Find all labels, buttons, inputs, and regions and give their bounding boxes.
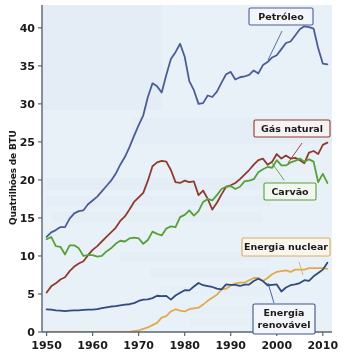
y-tick-label: 10 bbox=[20, 250, 36, 263]
callout-energia-renovavel-label-line1: Energia bbox=[264, 307, 305, 318]
callout-energia-renovavel[interactable]: Energia renovável bbox=[253, 304, 315, 334]
callout-energia-renovavel-label-line2: renovável bbox=[258, 319, 311, 330]
x-tick-label: 1990 bbox=[215, 339, 246, 352]
x-tick-label: 2000 bbox=[261, 339, 292, 352]
callout-petroleo-label: Petróleo bbox=[258, 11, 304, 22]
y-tick-label: 5 bbox=[27, 288, 35, 301]
x-tick-label: 1980 bbox=[169, 339, 200, 352]
callout-energia-nuclear[interactable]: Energia nuclear bbox=[242, 238, 330, 256]
y-tick-label: 25 bbox=[20, 136, 35, 149]
chart-canvas: 0510152025303540 19501960197019801990200… bbox=[0, 0, 344, 356]
x-tick-label: 1950 bbox=[31, 339, 62, 352]
callout-carvao[interactable]: Carvão bbox=[264, 183, 316, 200]
x-tick-label: 2010 bbox=[307, 339, 338, 352]
y-tick-label: 0 bbox=[27, 326, 35, 339]
x-tick-label: 1960 bbox=[77, 339, 108, 352]
y-axis-title: Quatrilhões de BTU bbox=[8, 130, 18, 225]
energy-consumption-chart: 0510152025303540 19501960197019801990200… bbox=[0, 0, 344, 356]
y-tick-label: 20 bbox=[20, 174, 36, 187]
callout-gas-natural-label: Gás natural bbox=[261, 123, 323, 134]
y-tick-label: 30 bbox=[20, 98, 36, 111]
y-tick-label: 15 bbox=[20, 212, 35, 225]
callout-energia-nuclear-label: Energia nuclear bbox=[244, 241, 328, 252]
callout-gas-natural[interactable]: Gás natural bbox=[254, 120, 330, 137]
y-tick-label: 40 bbox=[20, 22, 36, 35]
y-tick-label: 35 bbox=[20, 60, 35, 73]
x-tick-label: 1970 bbox=[123, 339, 154, 352]
callout-carvao-label: Carvão bbox=[271, 186, 309, 197]
callout-petroleo[interactable]: Petróleo bbox=[249, 8, 313, 25]
